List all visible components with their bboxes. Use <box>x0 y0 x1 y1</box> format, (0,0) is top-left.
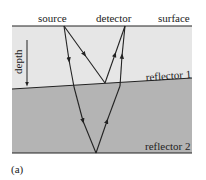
seismic-reflection-diagram: source detector surface depth reflector … <box>0 0 206 180</box>
surface-label: surface <box>158 12 190 24</box>
panel-label: (a) <box>11 163 24 176</box>
source-label: source <box>38 12 67 24</box>
depth-label: depth <box>12 49 24 74</box>
detector-label: detector <box>96 12 132 24</box>
reflector-2-label: reflector 2 <box>145 140 191 152</box>
